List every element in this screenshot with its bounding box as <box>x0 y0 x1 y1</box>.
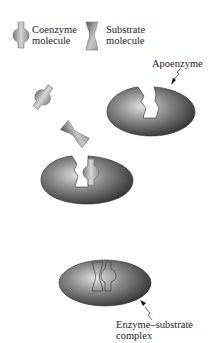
free-substrate-molecule <box>60 120 89 147</box>
complex-label-line1: Enzyme–substrate <box>116 319 193 330</box>
complex-label-line2: complex <box>116 330 193 341</box>
apoenzyme-pointer-icon <box>171 68 181 85</box>
apoenzyme-label: Apoenzyme <box>152 58 203 69</box>
coenzyme-legend-label: Coenzyme molecule <box>32 24 77 46</box>
substrate-label-line1: Substrate <box>106 24 145 35</box>
complex-label: Enzyme–substrate complex <box>116 319 193 341</box>
complex-pointer-icon <box>140 300 152 320</box>
apoenzyme-shape <box>107 87 195 136</box>
substrate-label-line2: molecule <box>106 35 145 46</box>
substrate-icon <box>86 22 98 50</box>
enzyme-substrate-complex-shape <box>59 260 151 306</box>
holoenzyme-shape <box>41 156 133 204</box>
coenzyme-label-line2: molecule <box>32 35 77 46</box>
enzyme-diagram <box>0 0 221 343</box>
substrate-legend-label: Substrate molecule <box>106 24 145 46</box>
coenzyme-label-line1: Coenzyme <box>32 24 77 35</box>
coenzyme-icon <box>13 22 29 48</box>
free-coenzyme-molecule <box>29 82 57 112</box>
